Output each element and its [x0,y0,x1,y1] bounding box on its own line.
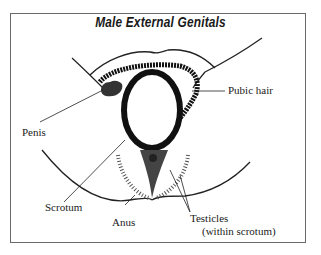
label-anus: Anus [112,216,135,228]
label-pubic-hair: Pubic hair [228,84,273,96]
label-penis: Penis [22,126,46,138]
label-scrotum: Scrotum [45,201,82,213]
anatomy-illustration [0,0,321,255]
label-testicles-note: (within scrotum) [202,225,276,237]
label-testicles: Testicles [190,212,228,224]
